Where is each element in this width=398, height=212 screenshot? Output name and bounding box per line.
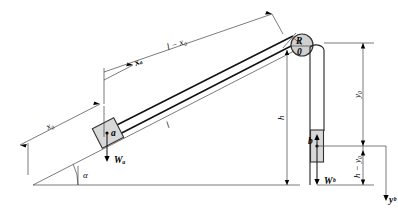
weight-b-arrow-head <box>314 179 319 185</box>
total-length-label-group: l <box>164 120 171 130</box>
weight-b-label: Wᵇ <box>324 176 336 186</box>
height-arrow-top <box>285 50 289 55</box>
height-label: h <box>276 115 286 120</box>
hy0-arrow-top <box>361 150 365 156</box>
angle-arc <box>73 164 78 185</box>
lx0-label: l − x₀ <box>165 36 187 52</box>
block-b-label: b <box>308 136 313 146</box>
yb-axis-arrow <box>383 195 388 201</box>
hy0-arrow-bottom <box>361 180 365 186</box>
y0-arrow-top <box>361 43 365 49</box>
lx0-label-group: l − x₀ <box>165 36 187 52</box>
hy0-label-group: h − y₀ <box>352 156 362 178</box>
yb-axis-label: yᵇ <box>388 195 397 205</box>
rod-upper-edge <box>107 36 293 130</box>
block-a-label: a <box>111 128 116 138</box>
x0-label: x₀ <box>43 120 55 133</box>
y0-label-group: y₀ <box>352 91 362 99</box>
angle-label: α <box>83 170 88 180</box>
height-label-group: h <box>276 115 286 120</box>
physics-diagram-figure: α l R 0 h b Wᵇ <box>0 0 398 212</box>
lx0-arrow-right <box>265 11 272 15</box>
x0-label-group: x₀ <box>43 120 55 133</box>
x0-dimension-line <box>20 104 100 145</box>
weight-a-label: Wₐ <box>114 155 125 165</box>
lx0-leader-line <box>272 14 283 34</box>
weight-a-arrow-head <box>104 156 109 162</box>
height-arrow-bottom <box>285 180 289 185</box>
diagram-canvas: α l R 0 h b Wᵇ <box>0 0 398 212</box>
total-length-label: l <box>164 120 171 130</box>
y0-label: y₀ <box>352 91 362 99</box>
pulley-origin-label: 0 <box>297 47 302 57</box>
hy0-label: h − y₀ <box>352 156 362 178</box>
lx0-dimension-line <box>104 14 272 72</box>
y0-arrow-bottom <box>361 141 365 147</box>
pulley-radius-label: R <box>295 36 302 46</box>
